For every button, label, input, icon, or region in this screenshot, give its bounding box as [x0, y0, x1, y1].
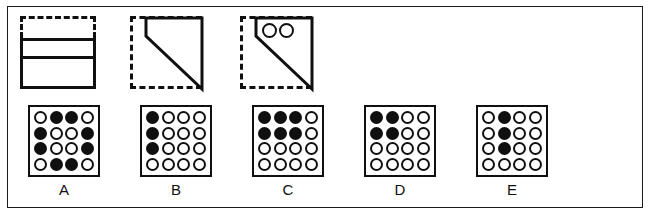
dot-cell: [528, 157, 544, 173]
answer-option-a[interactable]: A: [12, 105, 116, 198]
empty-dot-icon: [274, 158, 287, 171]
dot-cell: [385, 110, 401, 126]
filled-dot-icon: [50, 158, 63, 171]
stimulus-row: [8, 7, 642, 103]
option-d-label: D: [348, 181, 452, 198]
empty-dot-icon: [417, 158, 430, 171]
dot-cell: [369, 110, 385, 126]
option-a-dot-grid[interactable]: [28, 105, 100, 177]
empty-dot-icon: [401, 142, 414, 155]
filled-dot-icon: [370, 111, 383, 124]
empty-dot-icon: [513, 111, 526, 124]
option-c-label: C: [236, 181, 340, 198]
dot-cell: [481, 126, 497, 142]
empty-dot-icon: [529, 127, 542, 140]
dot-cell: [400, 157, 416, 173]
empty-dot-icon: [162, 111, 175, 124]
option-b-dot-grid[interactable]: [140, 105, 212, 177]
empty-dot-icon: [50, 127, 63, 140]
empty-dot-icon: [193, 158, 206, 171]
dot-cell: [192, 141, 208, 157]
empty-dot-icon: [162, 142, 175, 155]
filled-dot-icon: [370, 127, 383, 140]
filled-dot-icon: [289, 127, 302, 140]
option-a-label: A: [12, 181, 116, 198]
hole-left-circle-icon: [262, 23, 277, 38]
option-c-dot-grid[interactable]: [252, 105, 324, 177]
dot-cell: [145, 110, 161, 126]
empty-dot-icon: [146, 158, 159, 171]
dot-cell: [400, 126, 416, 142]
dot-cell: [80, 141, 96, 157]
filled-dot-icon: [34, 142, 47, 155]
dot-cell: [497, 126, 513, 142]
dot-cell: [304, 126, 320, 142]
dot-cell: [33, 110, 49, 126]
dot-cell: [49, 141, 65, 157]
empty-dot-icon: [482, 142, 495, 155]
dot-cell: [192, 157, 208, 173]
dot-cell: [512, 110, 528, 126]
dot-cell: [385, 126, 401, 142]
answer-option-b[interactable]: B: [124, 105, 228, 198]
dot-cell: [192, 126, 208, 142]
empty-dot-icon: [177, 158, 190, 171]
dot-cell: [257, 126, 273, 142]
empty-dot-icon: [401, 127, 414, 140]
dot-cell: [273, 126, 289, 142]
dot-cell: [304, 141, 320, 157]
dot-cell: [512, 126, 528, 142]
empty-dot-icon: [177, 142, 190, 155]
dot-cell: [257, 157, 273, 173]
dot-cell: [49, 110, 65, 126]
dot-cell: [33, 157, 49, 173]
dot-cell: [304, 110, 320, 126]
dot-cell: [304, 157, 320, 173]
dot-cell: [161, 141, 177, 157]
empty-dot-icon: [274, 142, 287, 155]
stimulus-shape-2: [128, 15, 220, 95]
horizontal-divider-line: [20, 56, 96, 59]
dot-cell: [497, 141, 513, 157]
stimulus-shape-3: [238, 15, 330, 95]
answer-option-c[interactable]: C: [236, 105, 340, 198]
option-e-dot-grid[interactable]: [476, 105, 548, 177]
dot-cell: [161, 126, 177, 142]
filled-dot-icon: [498, 142, 511, 155]
dot-cell: [481, 157, 497, 173]
empty-dot-icon: [482, 111, 495, 124]
filled-dot-icon: [81, 142, 94, 155]
dot-cell: [64, 157, 80, 173]
dot-cell: [64, 126, 80, 142]
empty-dot-icon: [177, 127, 190, 140]
empty-dot-icon: [162, 127, 175, 140]
filled-dot-icon: [386, 111, 399, 124]
filled-dot-icon: [274, 127, 287, 140]
dot-cell: [257, 141, 273, 157]
dot-cell: [416, 141, 432, 157]
dot-cell: [400, 141, 416, 157]
dot-cell: [33, 141, 49, 157]
dot-cell: [369, 157, 385, 173]
empty-dot-icon: [81, 111, 94, 124]
empty-dot-icon: [34, 111, 47, 124]
empty-dot-icon: [34, 158, 47, 171]
option-d-dot-grid[interactable]: [364, 105, 436, 177]
filled-dot-icon: [274, 111, 287, 124]
filled-dot-icon: [65, 158, 78, 171]
dot-cell: [416, 157, 432, 173]
empty-dot-icon: [513, 142, 526, 155]
dot-cell: [528, 126, 544, 142]
empty-dot-icon: [370, 142, 383, 155]
empty-dot-icon: [305, 127, 318, 140]
answer-option-e[interactable]: E: [460, 105, 564, 198]
empty-dot-icon: [401, 111, 414, 124]
dot-cell: [64, 141, 80, 157]
solid-rectangle-body: [20, 38, 96, 89]
dot-cell: [481, 141, 497, 157]
dot-cell: [176, 126, 192, 142]
empty-dot-icon: [513, 158, 526, 171]
empty-dot-icon: [305, 111, 318, 124]
empty-dot-icon: [162, 158, 175, 171]
answer-option-d[interactable]: D: [348, 105, 452, 198]
